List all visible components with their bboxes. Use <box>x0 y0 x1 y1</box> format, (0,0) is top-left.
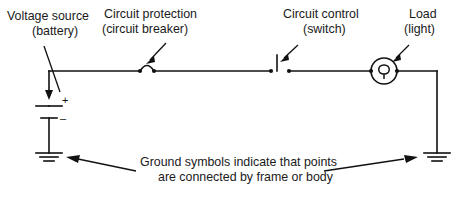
label-circuit-protection-line2: (circuit breaker) <box>102 22 188 36</box>
leader-lines <box>44 43 418 171</box>
battery-symbol: + – <box>36 90 68 153</box>
battery-minus-sign: – <box>60 112 67 124</box>
leader-voltage-source <box>44 46 60 92</box>
caption-line1: Ground symbols indicate that points <box>140 155 337 169</box>
circuit-breaker-terminal-right <box>152 69 156 73</box>
label-circuit-protection-line1: Circuit protection <box>104 7 197 21</box>
ground-right-symbol <box>424 153 450 161</box>
switch-terminal-right <box>287 69 291 73</box>
label-voltage-source-line2: (battery) <box>32 24 78 38</box>
circuit-breaker-terminal-left <box>138 69 142 73</box>
leader-circuit-control-arrow-icon <box>280 54 289 62</box>
leader-circuit-protection <box>150 43 166 60</box>
ground-left-symbol <box>36 153 62 161</box>
circuit-diagram-canvas: + – <box>0 0 463 198</box>
leader-load-arrow-icon <box>392 54 401 62</box>
switch-terminal-left <box>269 69 273 73</box>
lamp-envelope-icon <box>371 58 397 84</box>
lamp-filament-icon <box>379 65 390 79</box>
circuit-diagram: + – <box>0 0 463 198</box>
leader-caption-left <box>78 159 136 171</box>
battery-arrow-icon <box>45 90 53 100</box>
circuit-breaker-arc-icon <box>140 66 154 72</box>
label-voltage-source-line1: Voltage source <box>7 9 89 23</box>
label-load-line1: Load <box>409 7 437 21</box>
leader-circuit-protection-arrow-icon <box>146 56 155 64</box>
lamp-terminal-right <box>395 69 399 73</box>
lamp-terminal-left <box>369 69 373 73</box>
caption-line2: are connected by frame or body <box>158 170 334 184</box>
circuit-breaker-symbol <box>138 66 156 74</box>
label-circuit-control-line1: Circuit control <box>283 7 359 21</box>
leader-caption-right-arrow-icon <box>404 155 418 163</box>
leader-caption-left-arrow-icon <box>66 155 80 163</box>
lamp-symbol <box>369 58 399 84</box>
label-load-line2: (light) <box>404 22 435 36</box>
label-circuit-control-line2: (switch) <box>303 22 346 36</box>
battery-plus-sign: + <box>62 94 68 106</box>
